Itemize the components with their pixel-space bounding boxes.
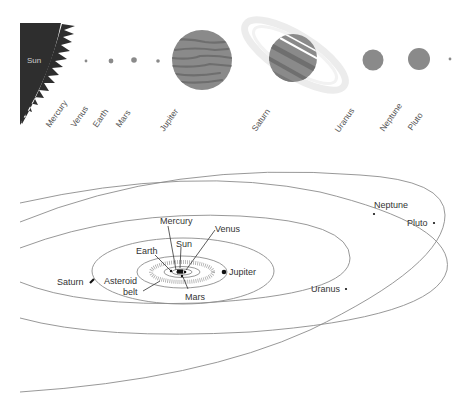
neptune-orbit-marker (373, 213, 375, 215)
label-asteroid-belt-2: belt (123, 287, 138, 297)
label-pluto-top: Pluto (405, 110, 424, 132)
mars-orbit-marker (181, 275, 183, 277)
label-jupiter: Jupiter (229, 267, 256, 277)
label-asteroid-belt-1: Asteroid (104, 276, 137, 286)
mercury-planet (85, 60, 88, 63)
label-saturn: Saturn (57, 277, 84, 287)
label-saturn-top: Saturn (249, 107, 272, 133)
label-earth: Earth (136, 246, 158, 256)
jupiter-planet (172, 30, 232, 90)
uranus-planet (363, 50, 384, 71)
label-uranus-top: Uranus (332, 106, 356, 134)
label-sun: Sun (176, 239, 192, 249)
label-venus-top: Venus (68, 104, 90, 129)
label-jupiter-top: Jupiter (157, 106, 180, 133)
solar-system-diagram: Sun Mercury Venu (0, 0, 466, 400)
jupiter-orbit-marker (222, 270, 227, 275)
label-pluto: Pluto (407, 218, 428, 228)
label-mars-top: Mars (113, 108, 132, 129)
label-neptune: Neptune (374, 200, 408, 210)
label-uranus: Uranus (311, 284, 341, 294)
earth-planet (131, 57, 137, 63)
label-earth-top: Earth (90, 107, 110, 130)
leader-lines (143, 226, 215, 291)
saturn-orbit-marker (90, 279, 94, 283)
label-mars: Mars (185, 292, 205, 302)
sun-label: Sun (27, 56, 41, 65)
mars-planet (156, 59, 160, 63)
pluto-planet (449, 58, 452, 61)
venus-planet (109, 59, 114, 64)
sun-orbit-marker (177, 270, 183, 274)
venus-orbit-marker (184, 271, 187, 274)
label-neptune-top: Neptune (377, 101, 404, 133)
label-mercury-top: Mercury (43, 98, 69, 129)
saturn-planet (235, 7, 355, 102)
sun-body: Sun (20, 23, 75, 125)
neptune-planet (408, 48, 430, 70)
uranus-orbit-marker (345, 288, 347, 290)
label-mercury: Mercury (160, 216, 193, 226)
pluto-orbit-marker (433, 222, 435, 224)
label-venus: Venus (215, 224, 241, 234)
earth-orbit-marker (170, 270, 172, 272)
